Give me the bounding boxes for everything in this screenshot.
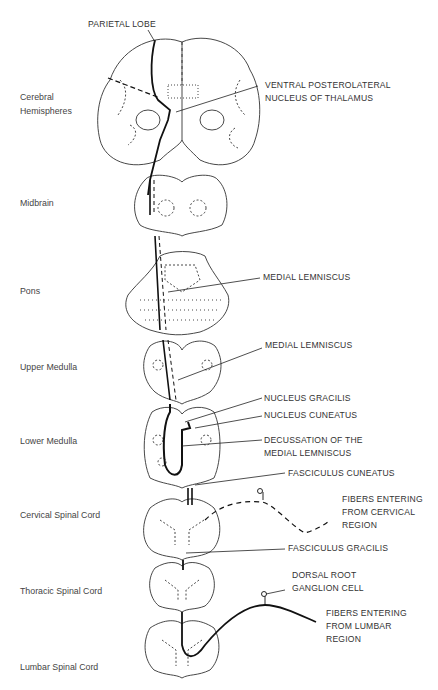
label-fibers-cervical: FIBERS ENTERING FROM CERVICAL REGION xyxy=(342,493,423,532)
level-cervical-spinal-cord: Cervical Spinal Cord xyxy=(20,510,100,520)
label-medial-lemniscus-pons: MEDIAL LEMNISCUS xyxy=(263,271,350,284)
label-fasciculus-cuneatus: FASCICULUS CUNEATUS xyxy=(288,467,395,480)
label-fibers-lumbar: FIBERS ENTERING FROM LUMBAR REGION xyxy=(326,607,407,646)
label-medial-lemniscus-medulla: MEDIAL LEMNISCUS xyxy=(265,339,352,352)
pons-section xyxy=(126,252,229,335)
thoracic-cord-section xyxy=(150,563,215,613)
cervical-cord-section xyxy=(144,499,220,560)
level-lower-medulla: Lower Medulla xyxy=(20,436,77,446)
level-lumbar-spinal-cord: Lumbar Spinal Cord xyxy=(20,662,98,672)
level-midbrain: Midbrain xyxy=(20,198,54,208)
label-vpl-thalamus: VENTRAL POSTEROLATERAL NUCLEUS OF THALAM… xyxy=(265,79,391,105)
upper-medulla-section xyxy=(144,341,221,404)
level-thoracic-spinal-cord: Thoracic Spinal Cord xyxy=(20,586,102,596)
label-decussation-medial-lemniscus: DECUSSATION OF THE MEDIAL LEMNISCUS xyxy=(264,434,363,460)
label-nucleus-cuneatus: NUCLEUS CUNEATUS xyxy=(264,409,357,422)
label-fasciculus-gracilis: FASCICULUS GRACILIS xyxy=(288,542,388,555)
label-dorsal-root-ganglion: DORSAL ROOT GANGLION CELL xyxy=(292,569,364,595)
level-upper-medulla: Upper Medulla xyxy=(20,362,77,372)
level-pons: Pons xyxy=(20,286,40,296)
label-nucleus-gracilis: NUCLEUS GRACILIS xyxy=(264,392,351,405)
midbrain-section xyxy=(135,175,227,236)
level-cerebral-hemispheres: Cerebral Hemispheres xyxy=(20,90,72,118)
cerebral-hemispheres-section xyxy=(98,38,260,165)
label-parietal-lobe: PARIETAL LOBE xyxy=(88,18,156,31)
